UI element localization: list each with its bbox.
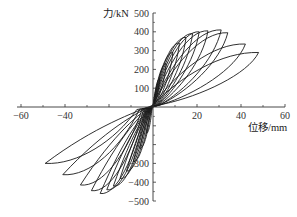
- x-tick-label: −60: [13, 110, 29, 121]
- y-tick-label: 100: [134, 83, 149, 94]
- y-tick-label: 200: [134, 64, 149, 75]
- hysteresis-chart: −60−40204060 500400300200100−300−400−500…: [0, 0, 297, 217]
- y-tick-label: 500: [134, 8, 149, 19]
- y-tick-label: 400: [134, 26, 149, 37]
- x-tick-label: 20: [192, 110, 202, 121]
- y-axis-title: 力/kN: [103, 7, 129, 19]
- hysteresis-loop: [63, 44, 246, 175]
- y-tick-label: −300: [128, 158, 149, 169]
- x-axis-title: 位移/mm: [248, 121, 287, 133]
- x-tick-label: −40: [57, 110, 73, 121]
- x-tick-label: 40: [236, 110, 246, 121]
- y-tick-label: −400: [128, 177, 149, 188]
- y-tick-label: −500: [128, 196, 149, 207]
- y-tick-label: 300: [134, 45, 149, 56]
- x-tick-label: 60: [280, 110, 290, 121]
- hysteresis-curves: [45, 30, 258, 194]
